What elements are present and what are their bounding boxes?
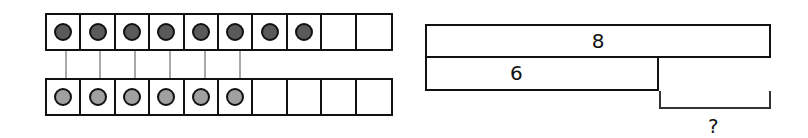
unknown-label: ? bbox=[708, 114, 719, 138]
ten-frame-cell bbox=[253, 15, 287, 49]
counter-dot bbox=[89, 23, 107, 41]
ten-frame-cell bbox=[357, 80, 391, 114]
ten-frame-top bbox=[45, 13, 393, 51]
counter-dot bbox=[192, 88, 210, 106]
ten-frame-cell bbox=[150, 80, 184, 114]
ten-frame-cell bbox=[322, 15, 356, 49]
ten-frame-cell bbox=[47, 15, 81, 49]
ten-frame-cell bbox=[116, 15, 150, 49]
counter-dot bbox=[123, 88, 141, 106]
ten-frame-cell bbox=[81, 80, 115, 114]
whole-bar: 8 bbox=[425, 24, 771, 58]
counter-dot bbox=[123, 23, 141, 41]
counter-dot bbox=[226, 23, 244, 41]
counter-dot bbox=[89, 88, 107, 106]
ten-frame-cell bbox=[357, 15, 391, 49]
matching-line bbox=[169, 51, 171, 78]
ten-frame-cell bbox=[116, 80, 150, 114]
ten-frame-cell bbox=[288, 15, 322, 49]
matching-line bbox=[134, 51, 136, 78]
part-bar: 6 bbox=[425, 56, 659, 91]
matching-line bbox=[204, 51, 206, 78]
ten-frame-bottom bbox=[45, 78, 393, 116]
ten-frame-cell bbox=[185, 80, 219, 114]
ten-frame-cell bbox=[219, 15, 253, 49]
matching-line bbox=[65, 51, 67, 78]
ten-frame-cell bbox=[150, 15, 184, 49]
counter-dot bbox=[226, 88, 244, 106]
ten-frame-cell bbox=[185, 15, 219, 49]
unknown-bracket bbox=[659, 91, 771, 109]
part-bar-label: 6 bbox=[510, 61, 523, 85]
matching-line bbox=[239, 51, 241, 78]
ten-frame-cell bbox=[322, 80, 356, 114]
ten-frame-cell bbox=[219, 80, 253, 114]
counter-dot bbox=[192, 23, 210, 41]
counter-dot bbox=[54, 88, 72, 106]
counter-dot bbox=[157, 23, 175, 41]
whole-bar-label: 8 bbox=[592, 29, 605, 53]
ten-frame-cell bbox=[47, 80, 81, 114]
ten-frame-cell bbox=[288, 80, 322, 114]
matching-line bbox=[99, 51, 101, 78]
counter-dot bbox=[54, 23, 72, 41]
counter-dot bbox=[261, 23, 279, 41]
counter-dot bbox=[295, 23, 313, 41]
ten-frame-cell bbox=[253, 80, 287, 114]
ten-frame-cell bbox=[81, 15, 115, 49]
counter-dot bbox=[157, 88, 175, 106]
